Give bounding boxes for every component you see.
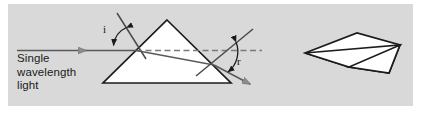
angle-of-refraction-label: r bbox=[237, 55, 241, 67]
source-caption: Single wavelength light bbox=[17, 52, 112, 93]
angle-of-incidence-arc bbox=[114, 28, 127, 46]
figure-root: Single wavelength light i r bbox=[0, 0, 421, 116]
normal-line-exit bbox=[196, 29, 253, 76]
angle-of-incidence-label: i bbox=[103, 23, 106, 35]
